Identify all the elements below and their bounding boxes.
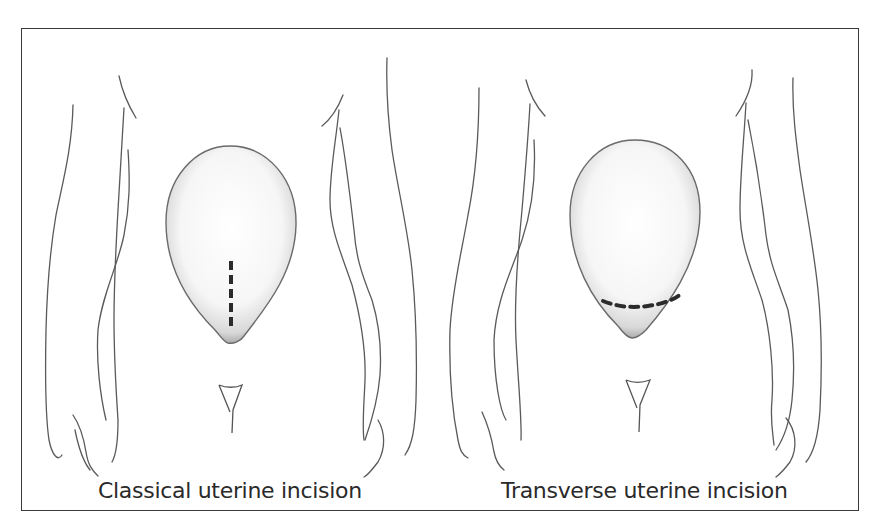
illustration — [0, 0, 881, 530]
left-armpit-curve-2 — [526, 80, 545, 116]
right-hand-2 — [776, 418, 795, 477]
torso-right-outline-2 — [793, 78, 821, 462]
left-arm-inner — [112, 108, 124, 462]
torso-right-outline — [387, 58, 417, 455]
left-arm-inner-2 — [515, 104, 530, 440]
pubic-mark-left — [219, 385, 242, 433]
torso-left-outline-2 — [450, 88, 479, 458]
left-armpit-curve — [119, 76, 136, 118]
left-hand — [73, 415, 98, 476]
torso-left-outline — [46, 105, 73, 458]
left-arm-outer — [97, 150, 129, 420]
caption-classical: Classical uterine incision — [98, 478, 362, 503]
right-arm-inner — [330, 110, 365, 440]
right-armpit-curve — [322, 95, 343, 126]
caption-transverse: Transverse uterine incision — [501, 478, 788, 503]
right-arm-outer — [340, 128, 381, 440]
right-armpit-curve-2 — [736, 70, 752, 116]
right-arm-inner-2 — [740, 103, 774, 445]
left-hand-2b — [482, 412, 504, 470]
right-hand — [364, 420, 384, 477]
right-arm-outer-2 — [748, 120, 794, 450]
left-arm-outer-2 — [494, 140, 535, 420]
uterus-classical — [166, 146, 296, 343]
pubic-mark-right — [626, 380, 650, 432]
